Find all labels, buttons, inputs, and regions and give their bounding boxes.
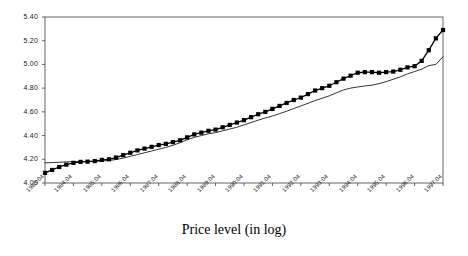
- data-point-marker: [121, 153, 125, 157]
- data-point-marker: [235, 120, 239, 124]
- data-point-marker: [50, 168, 54, 172]
- chart-title: Price level (in log): [0, 222, 468, 238]
- data-point-marker: [427, 48, 431, 52]
- data-point-marker: [398, 68, 402, 72]
- data-point-marker: [199, 131, 203, 135]
- data-point-marker: [64, 163, 68, 167]
- data-point-marker: [285, 101, 289, 105]
- data-point-marker: [370, 70, 374, 74]
- data-point-marker: [43, 171, 47, 175]
- data-point-marker: [256, 112, 260, 116]
- y-axis-tick-label: 5.00: [8, 60, 38, 67]
- plot-frame: [45, 17, 443, 183]
- y-axis-tick-label: 4.20: [8, 155, 38, 162]
- data-point-marker: [377, 71, 381, 75]
- data-point-marker: [299, 96, 303, 100]
- data-point-marker: [157, 143, 161, 147]
- data-point-marker: [221, 125, 225, 129]
- data-point-marker: [142, 147, 146, 151]
- data-point-marker: [334, 80, 338, 84]
- data-point-marker: [349, 74, 353, 78]
- data-point-marker: [228, 123, 232, 127]
- data-point-marker: [242, 118, 246, 122]
- y-axis-tick-label: 4.60: [8, 108, 38, 115]
- data-point-marker: [313, 88, 317, 92]
- data-point-marker: [391, 69, 395, 73]
- data-point-marker: [249, 115, 253, 119]
- data-point-marker: [277, 104, 281, 108]
- data-point-marker: [356, 71, 360, 75]
- data-point-marker: [341, 77, 345, 81]
- data-point-marker: [306, 92, 310, 96]
- data-point-marker: [213, 128, 217, 132]
- data-point-marker: [434, 36, 438, 40]
- series-line-series-with-markers: [45, 30, 443, 173]
- data-point-marker: [263, 110, 267, 114]
- data-point-marker: [78, 160, 82, 164]
- data-point-marker: [171, 140, 175, 144]
- data-point-marker: [192, 132, 196, 136]
- data-point-marker: [327, 84, 331, 88]
- data-point-marker: [363, 70, 367, 74]
- y-axis-tick-label: 4.80: [8, 84, 38, 91]
- chart-container: 4.004.204.404.604.805.005.205.40 1983:04…: [0, 0, 468, 256]
- data-point-marker: [441, 28, 445, 32]
- data-point-marker: [206, 129, 210, 133]
- data-point-marker: [128, 151, 132, 155]
- data-point-marker: [405, 65, 409, 69]
- data-point-marker: [292, 98, 296, 102]
- data-point-marker: [412, 64, 416, 68]
- data-point-marker: [164, 142, 168, 146]
- plot-area: [0, 0, 468, 256]
- y-axis-tick-label: 5.40: [8, 13, 38, 20]
- data-point-marker: [57, 165, 61, 169]
- data-point-marker: [270, 107, 274, 111]
- data-point-marker: [320, 86, 324, 90]
- data-point-marker: [150, 145, 154, 149]
- data-point-marker: [135, 148, 139, 152]
- data-point-marker: [384, 70, 388, 74]
- data-point-marker: [420, 59, 424, 63]
- y-axis-tick-label: 5.20: [8, 37, 38, 44]
- y-axis-tick-label: 4.40: [8, 132, 38, 139]
